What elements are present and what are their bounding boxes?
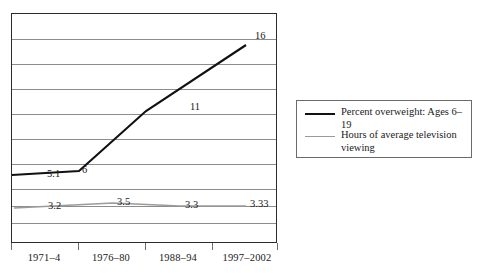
data-label-overweight-1988: 11	[190, 101, 200, 112]
axis-tick	[11, 243, 12, 250]
axis-tick	[277, 243, 278, 250]
black-line-swatch-icon	[305, 113, 335, 115]
line-chart-figure: 5.1 6 11 16 3.2 3.5 3.3 3.33 1971–4 1976…	[0, 0, 482, 273]
data-label-television-1988: 3.3	[185, 199, 198, 210]
x-axis-label-1997: 1997–2002	[213, 252, 281, 263]
axis-tick	[78, 243, 79, 250]
x-axis-label-1971: 1971–4	[14, 252, 74, 263]
chart-legend: Percent overweight: Ages 6–19 Hours of a…	[296, 100, 472, 158]
legend-label-percent-overweight: Percent overweight: Ages 6–19	[341, 106, 469, 131]
legend-label-television-viewing: Hours of average television viewing	[341, 129, 469, 154]
data-label-television-1976: 3.5	[117, 196, 130, 207]
axis-tick	[145, 243, 146, 250]
data-label-television-1997: 3.33	[250, 198, 268, 209]
legend-item-television-viewing: Hours of average television viewing	[305, 129, 469, 154]
x-axis-label-1976: 1976–80	[81, 252, 141, 263]
data-label-overweight-1971: 5.1	[47, 168, 60, 179]
series-line-percent-overweight	[12, 45, 246, 175]
gray-line-swatch-icon	[305, 136, 335, 137]
x-axis-label-1988: 1988–94	[148, 252, 208, 263]
legend-item-percent-overweight: Percent overweight: Ages 6–19	[305, 106, 469, 131]
data-label-television-1971: 3.2	[48, 200, 61, 211]
data-label-overweight-1997: 16	[255, 30, 266, 41]
axis-tick	[212, 243, 213, 250]
data-label-overweight-1976: 6	[82, 164, 87, 175]
